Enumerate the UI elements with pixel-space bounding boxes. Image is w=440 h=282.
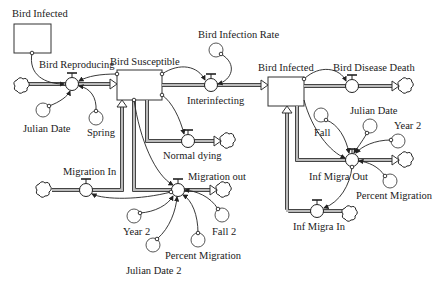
label-migration-in: Migration In [63,167,116,178]
aux-julian-date-right[interactable] [363,119,377,133]
valve-migration-out[interactable] [172,179,185,197]
cloud-sink-migration-out [216,182,231,198]
cloud-sink-inf-migra-out [398,152,413,168]
flow-pipe-migration-in [52,100,127,192]
label-interinfecting: Interinfecting [187,96,244,107]
label-bird-infected: Bird Infected [258,63,314,74]
label-inf-migra-in: Inf Migra In [293,222,345,233]
cloud-sink-normal-dying [220,133,235,149]
label-bird-disease-death: Bird Disease Death [333,63,415,74]
cloud-source-migration-in [36,182,51,198]
label-bird-susceptible: Bird Susceptible [110,57,180,68]
stock-bird-infected-ghost[interactable] [14,24,51,53]
stock-bird-susceptible[interactable] [117,70,162,100]
label-percent-migration: Percent Migration [165,251,241,262]
diagram-canvas [0,0,440,282]
valve-bird-disease-death[interactable] [346,75,359,93]
label-inf-migra-out: Inf Migra Out [309,172,368,183]
label-spring: Spring [87,128,115,139]
cloud-source-bird-reproducing [14,78,29,94]
label-julian-date-right: Julian Date [350,106,398,117]
label-bird-infection-rate: Bird Infection Rate [198,30,279,41]
valve-migration-in[interactable] [80,179,93,197]
label-fall-2: Fall 2 [212,227,236,238]
label-normal-dying: Normal dying [163,151,222,162]
label-year-2: Year 2 [123,227,150,238]
label-fall: Fall [314,128,330,139]
label-percent-migration-right: Percent Migration [356,191,432,202]
aux-year-2-right[interactable] [391,134,405,148]
label-bird-infected-ghost: Bird Infected [12,9,68,20]
valve-inf-migra-out[interactable] [346,149,359,167]
stock-flow-diagram: Bird Infected Bird Susceptible Bird Infe… [0,0,440,282]
cloud-source-inf-migra-in [342,206,357,222]
label-bird-reproducing: Bird Reproducing [39,60,115,71]
valve-interinfecting[interactable] [205,74,218,92]
label-julian-date-2: Julian Date 2 [126,266,181,277]
cloud-sink-bird-disease-death [398,78,413,94]
label-migration-out: Migration out [188,172,246,183]
stock-bird-infected[interactable] [268,77,304,106]
label-year-2-right: Year 2 [394,121,421,132]
valve-inf-migra-in[interactable] [311,200,324,218]
label-julian-date: Julian Date [23,124,71,135]
valve-bird-reproducing[interactable] [66,73,79,91]
